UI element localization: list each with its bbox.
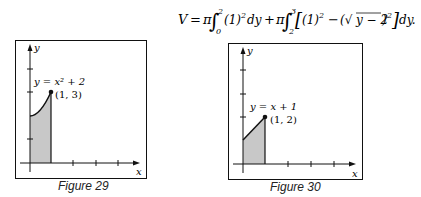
figure-30: y x y = x + 1 (1, 2) [0,0,421,197]
x-axis-label: x [352,168,358,179]
figure-30-caption: Figure 30 [270,180,321,194]
y-axis-label: y [246,45,253,56]
point-label: (1, 2) [270,114,297,125]
curve-label: y = x + 1 [249,101,297,112]
